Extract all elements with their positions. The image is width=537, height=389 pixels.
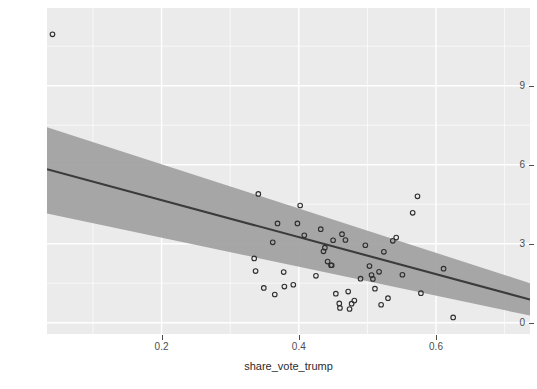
data-point [272,292,277,297]
x-tick-label: 0.6 [416,342,456,352]
x-tick-mark [162,335,163,340]
y-tick-label: 0 [519,318,525,328]
data-point [394,235,399,240]
x-tick-mark [436,335,437,340]
data-point [262,286,267,291]
data-point [379,302,384,307]
y-tick-label: 9 [519,81,525,91]
y-tick-mark [529,165,534,166]
data-point [338,306,343,311]
chart-title [0,0,537,1]
data-point [451,315,456,320]
data-point [253,269,258,274]
data-point [415,194,420,199]
scatter-plot-figure: avg_hatecrimes_per_100k_fbi share_vote_t… [0,0,537,389]
data-point [281,270,286,275]
data-point [50,32,55,37]
plot-panel [47,8,530,334]
regression-line [47,169,530,299]
y-tick-mark [529,323,534,324]
data-point [282,284,287,289]
x-tick-label: 0.4 [279,342,319,352]
y-tick-label: 3 [519,239,525,249]
data-point [314,274,319,279]
data-point [346,289,351,294]
data-point [410,211,415,216]
plot-canvas [47,8,530,334]
data-point [373,286,378,291]
data-point [334,291,339,296]
data-point [337,301,342,306]
confidence-band [47,127,530,315]
data-point [347,307,352,312]
y-tick-mark [529,244,534,245]
x-axis-title: share_vote_trump [47,360,530,372]
x-tick-label: 0.2 [142,342,182,352]
x-tick-mark [299,335,300,340]
data-point [352,298,357,303]
y-tick-mark [529,86,534,87]
data-point [386,296,391,301]
y-tick-label: 6 [519,160,525,170]
